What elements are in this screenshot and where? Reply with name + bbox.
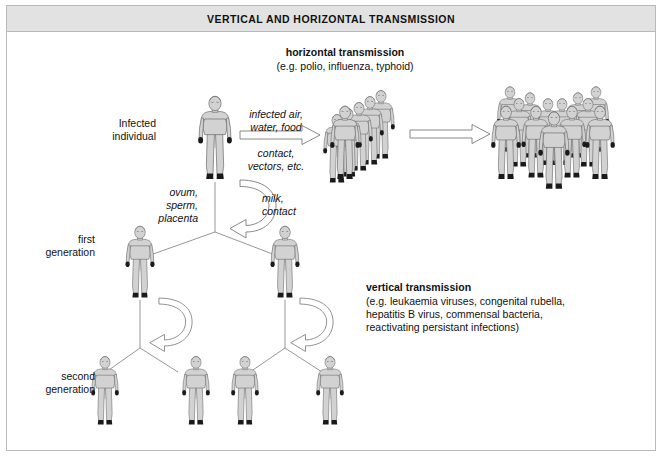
vertical-transmission-examples-line3: reactivating persistant infections)	[366, 321, 626, 333]
route-air-label-line1: infected air,	[228, 108, 324, 120]
vertical-transmission-heading: vertical transmission	[366, 281, 616, 293]
vertical-transmission-examples-line1: (e.g. leukaemia viruses, congenital rube…	[366, 295, 626, 307]
horizontal-transmission-examples: (e.g. polio, influenza, typhoid)	[220, 60, 470, 72]
ovum-label-line2: sperm,	[118, 199, 198, 211]
figure-title-bar: VERTICAL AND HORIZONTAL TRANSMISSION	[7, 6, 655, 32]
ovum-label-line3: placenta	[118, 212, 198, 224]
ovum-label-line1: ovum,	[118, 186, 198, 198]
route-contact-label-line1: contact,	[228, 147, 324, 159]
vertical-transmission-examples-line2: hepatitis B virus, commensal bacteria,	[366, 308, 626, 320]
route-air-label-line2: water, food	[228, 121, 324, 133]
milk-label-line2: contact	[262, 205, 342, 217]
transmission-diagram-figure: VERTICAL AND HORIZONTAL TRANSMISSION	[0, 0, 664, 458]
second-generation-label-line1: second	[20, 370, 95, 382]
first-generation-label-line2: generation	[20, 246, 95, 258]
first-generation-label-line1: first	[20, 233, 95, 245]
page-title: VERTICAL AND HORIZONTAL TRANSMISSION	[207, 13, 455, 25]
infected-individual-label-line2: individual	[68, 130, 156, 142]
milk-label-line1: milk,	[262, 192, 342, 204]
infected-individual-label-line1: Infected	[68, 117, 156, 129]
second-generation-label-line2: generation	[20, 383, 95, 395]
route-contact-label-line2: vectors, etc.	[228, 160, 324, 172]
horizontal-transmission-heading: horizontal transmission	[220, 46, 470, 58]
